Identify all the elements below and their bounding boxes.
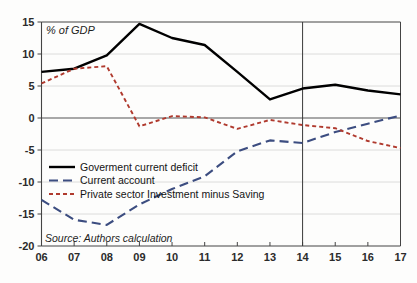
source-note: Source: Authors calculation [45, 232, 173, 244]
x-tick-label: 15 [329, 251, 341, 263]
line-chart: 151050-5-10-15-20 0607080910111213141516… [0, 0, 417, 283]
x-tick-label: 14 [296, 251, 309, 263]
x-tick-label: 13 [264, 251, 276, 263]
legend-label-1: Current account [80, 174, 155, 186]
y-tick-label: -20 [19, 240, 35, 252]
x-axis-tick-labels: 060708091011121314151617 [35, 251, 406, 263]
chart-container: 151050-5-10-15-20 0607080910111213141516… [0, 0, 417, 283]
axis-unit-note: % of GDP [46, 24, 96, 36]
series-line-2 [42, 66, 401, 148]
x-tick-label: 09 [133, 251, 145, 263]
y-tick-label: 5 [28, 80, 34, 92]
x-tick-label: 17 [394, 251, 406, 263]
x-tick-label: 12 [231, 251, 243, 263]
x-tick-label: 10 [166, 251, 178, 263]
x-tick-label: 08 [101, 251, 113, 263]
chart-legend: Goverment current deficitCurrent account… [49, 161, 265, 200]
x-tick-label: 11 [199, 251, 211, 263]
y-axis-ticks [38, 22, 42, 246]
y-tick-label: -10 [19, 176, 35, 188]
x-tick-label: 07 [68, 251, 80, 263]
y-tick-label: -5 [25, 144, 35, 156]
y-tick-label: 15 [22, 16, 34, 28]
x-tick-label: 06 [35, 251, 47, 263]
y-axis-tick-labels: 151050-5-10-15-20 [19, 16, 35, 252]
legend-label-0: Goverment current deficit [80, 161, 198, 173]
plot-frame [42, 22, 401, 246]
legend-label-2: Private sector Investment minus Saving [80, 188, 265, 200]
series-line-0 [42, 24, 401, 100]
y-tick-label: 10 [22, 48, 34, 60]
y-tick-label: -15 [19, 208, 35, 220]
x-tick-label: 16 [362, 251, 374, 263]
y-tick-label: 0 [28, 112, 34, 124]
